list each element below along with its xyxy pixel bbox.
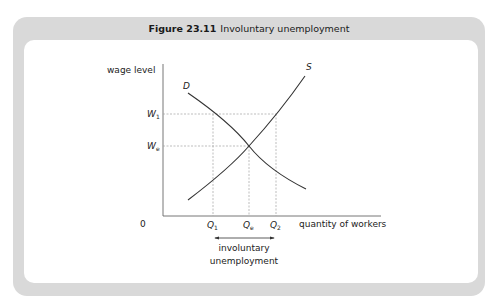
q2-label: Q2 bbox=[270, 220, 281, 231]
w1-label: W1 bbox=[147, 109, 160, 120]
annotation-line1: involuntary bbox=[218, 243, 270, 253]
q1-label: Q1 bbox=[207, 220, 218, 231]
demand-curve bbox=[188, 93, 306, 189]
supply-curve bbox=[188, 76, 305, 200]
labour-market-chart: wage level quantity of workers 0 D S W1 … bbox=[0, 0, 502, 307]
y-axis-label: wage level bbox=[107, 65, 155, 75]
x-axis-label: quantity of workers bbox=[299, 219, 387, 229]
we-label: We bbox=[147, 141, 160, 152]
qe-label: Qe bbox=[243, 220, 254, 231]
guide-lines bbox=[163, 114, 276, 216]
demand-label: D bbox=[183, 81, 190, 91]
annotation-line2: unemployment bbox=[210, 256, 279, 266]
origin-label: 0 bbox=[140, 219, 146, 229]
supply-label: S bbox=[306, 62, 312, 72]
